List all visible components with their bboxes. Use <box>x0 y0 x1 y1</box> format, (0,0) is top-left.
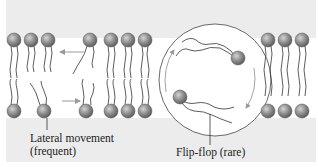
left-bottom-lipids <box>10 79 47 105</box>
left-top-lipids <box>10 46 52 78</box>
lateral-movement-label: Lateral movement (frequent) <box>30 132 114 158</box>
flip-flop-circle <box>159 24 271 136</box>
lateral-label-line1: Lateral movement <box>30 132 114 145</box>
middle-lipids-tails <box>73 46 149 105</box>
lateral-label-line2: (frequent) <box>30 145 114 158</box>
bilayer-diagram: Lateral movement (frequent) Flip-flop (r… <box>0 0 318 167</box>
flip-flop-label: Flip-flop (rare) <box>176 146 245 159</box>
